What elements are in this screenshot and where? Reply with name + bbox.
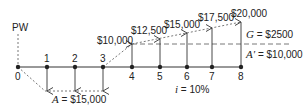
- inflow-label-6: $15,000: [164, 19, 201, 30]
- inflow-label-7: $17,500: [198, 12, 235, 23]
- inflow-label-5: $12,500: [131, 25, 168, 36]
- period-label-8: 8: [238, 71, 244, 82]
- period-label-7: 7: [209, 71, 215, 82]
- period-label-5: 5: [157, 71, 163, 82]
- period-label-0: 0: [15, 71, 21, 82]
- pw-label: PW: [12, 22, 29, 33]
- gradient-label: G = $2500: [246, 28, 294, 40]
- period-label-4: 4: [129, 71, 135, 82]
- gradient-start-dashed: [103, 44, 132, 67]
- annuity-label: A = $15,000: [51, 93, 107, 105]
- period-label-1: 1: [44, 53, 50, 64]
- inflow-label-4: $10,000: [97, 35, 134, 46]
- period-label-3: 3: [100, 53, 106, 64]
- inflow-label-8: $20,000: [231, 8, 268, 19]
- period-label-6: 6: [184, 71, 190, 82]
- cash-flow-diagram: PW 0 1 2 3 4 5 6 7 8 $10,000 $12,500 $15…: [0, 0, 307, 107]
- period-label-2: 2: [72, 53, 78, 64]
- interest-label: i = 10%: [175, 83, 210, 95]
- pw-to-annuity-dashed: [18, 67, 45, 91]
- base-annuity-label: A′ = $10,000: [245, 48, 303, 60]
